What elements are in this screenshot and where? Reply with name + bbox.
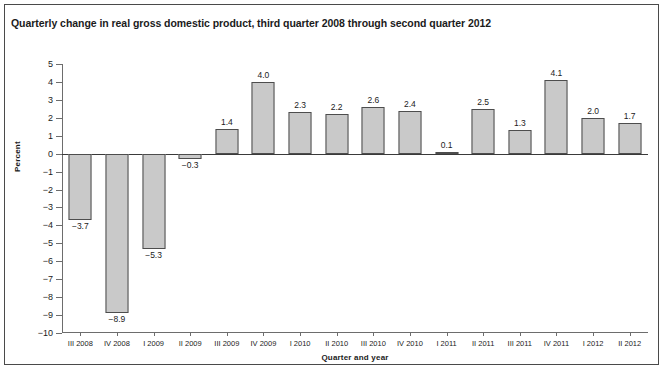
bar-slot: 2.3I 2010	[282, 64, 319, 333]
bar-value-label: −3.7	[72, 221, 89, 231]
bar-slot: 4.0IV 2009	[245, 64, 282, 333]
y-tick-label: 0	[48, 149, 53, 159]
x-tick-mark	[520, 332, 521, 336]
plot-area: 543210−1−2−3−4−5−6−7−8−9−10 −3.7III 2008…	[62, 64, 648, 333]
bar[interactable]	[215, 129, 238, 154]
x-tick-label: III 2011	[508, 339, 532, 348]
x-tick-label: IV 2011	[544, 339, 569, 348]
bar-value-label: 1.3	[514, 118, 526, 128]
bar-value-label: 2.5	[477, 97, 489, 107]
x-tick-label: III 2010	[361, 339, 386, 348]
bar-value-label: 4.0	[258, 70, 270, 80]
x-tick-mark	[117, 332, 118, 336]
bar-slot: 2.4IV 2010	[392, 64, 429, 333]
bar[interactable]	[325, 114, 348, 153]
bar[interactable]	[69, 154, 92, 220]
y-tick-label: 4	[48, 77, 53, 87]
bar-slot: 2.6III 2010	[355, 64, 392, 333]
bar-slot: 1.4III 2009	[209, 64, 246, 333]
bar-value-label: −5.3	[145, 250, 162, 260]
x-tick-label: II 2011	[472, 339, 494, 348]
bar[interactable]	[289, 112, 312, 153]
y-tick-label: −10	[38, 328, 53, 338]
bar-slot: 0.1I 2011	[428, 64, 465, 333]
x-tick-label: I 2010	[290, 339, 311, 348]
bar[interactable]	[508, 130, 531, 153]
bar[interactable]	[582, 118, 605, 154]
bar-slot: −3.7III 2008	[62, 64, 99, 333]
bar[interactable]	[435, 152, 458, 154]
bar[interactable]	[142, 154, 165, 249]
y-tick-label: −5	[43, 238, 53, 248]
x-tick-label: II 2012	[618, 339, 641, 348]
x-tick-label: I 2009	[143, 339, 164, 348]
bar-value-label: 0.1	[441, 140, 453, 150]
bar-slot: 4.1IV 2011	[538, 64, 575, 333]
x-tick-label: IV 2008	[104, 339, 130, 348]
bar-value-label: −8.9	[109, 314, 126, 324]
x-tick-label: III 2008	[68, 339, 93, 348]
bar[interactable]	[545, 80, 568, 154]
bar-slot: −8.9IV 2008	[99, 64, 136, 333]
x-tick-mark	[483, 332, 484, 336]
x-tick-label: I 2011	[436, 339, 456, 348]
x-tick-mark	[630, 332, 631, 336]
chart-title: Quarterly change in real gross domestic …	[11, 17, 631, 29]
x-tick-mark	[556, 332, 557, 336]
bar-value-label: 4.1	[551, 68, 563, 78]
bar-slot: 1.3III 2011	[502, 64, 539, 333]
x-tick-mark	[300, 332, 301, 336]
y-tick-label: −7	[43, 274, 53, 284]
x-tick-mark	[263, 332, 264, 336]
x-tick-mark	[80, 332, 81, 336]
bar-value-label: 2.0	[587, 106, 599, 116]
bar-slot: 2.5II 2011	[465, 64, 502, 333]
y-tick-label: −4	[43, 220, 53, 230]
y-tick-label: −9	[43, 310, 53, 320]
bar[interactable]	[472, 109, 495, 154]
bar-value-label: −0.3	[182, 160, 199, 170]
x-tick-mark	[410, 332, 411, 336]
bar-value-label: 2.4	[404, 99, 416, 109]
bar-value-label: 2.6	[367, 95, 379, 105]
y-tick-label: 2	[48, 113, 53, 123]
bar[interactable]	[618, 123, 641, 153]
y-tick-label: 3	[48, 95, 53, 105]
chart-figure: Quarterly change in real gross domestic …	[0, 0, 663, 369]
bar-slot: 2.2II 2010	[318, 64, 355, 333]
x-axis-title: Quarter and year	[62, 353, 648, 362]
bar[interactable]	[252, 82, 275, 154]
x-tick-mark	[190, 332, 191, 336]
y-tick-label: 1	[48, 131, 53, 141]
x-tick-label: III 2009	[214, 339, 239, 348]
x-tick-mark	[373, 332, 374, 336]
y-axis-title: Percent	[13, 141, 22, 172]
x-tick-label: IV 2009	[251, 339, 277, 348]
bar-slot: −0.3II 2009	[172, 64, 209, 333]
y-tick-mark	[56, 333, 62, 334]
bar[interactable]	[105, 154, 128, 314]
x-tick-label: II 2010	[325, 339, 348, 348]
x-tick-label: IV 2010	[397, 339, 423, 348]
bar[interactable]	[362, 107, 385, 154]
x-tick-label: I 2012	[583, 339, 604, 348]
x-tick-mark	[337, 332, 338, 336]
bar[interactable]	[398, 111, 421, 154]
x-tick-label: II 2009	[179, 339, 202, 348]
y-tick-label: 5	[48, 59, 53, 69]
bar-slot: −5.3I 2009	[135, 64, 172, 333]
y-tick-label: −6	[43, 256, 53, 266]
y-tick-label: −3	[43, 202, 53, 212]
bar-value-label: 2.2	[331, 102, 343, 112]
bar-value-label: 1.7	[624, 111, 636, 121]
x-tick-mark	[593, 332, 594, 336]
bar-value-label: 2.3	[294, 100, 306, 110]
bar-value-label: 1.4	[221, 117, 233, 127]
y-tick-label: −1	[43, 167, 53, 177]
x-tick-mark	[447, 332, 448, 336]
bar-slot: 1.7II 2012	[611, 64, 648, 333]
y-tick-label: −8	[43, 292, 53, 302]
x-tick-mark	[227, 332, 228, 336]
bar[interactable]	[179, 154, 202, 159]
bar-slot: 2.0I 2012	[575, 64, 612, 333]
